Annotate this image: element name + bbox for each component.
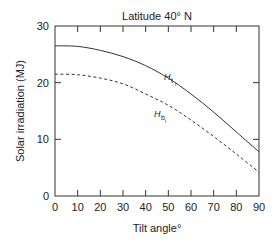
series-label-subsub: i <box>165 118 166 124</box>
x-tick-label: 50 <box>162 201 174 213</box>
x-tick-label: 40 <box>140 201 152 213</box>
y-tick-label: 30 <box>37 20 49 32</box>
x-tick-label: 80 <box>230 201 242 213</box>
chart: Latitude 40° N 0102030405060708090010203… <box>0 0 278 248</box>
x-tick-label: 0 <box>52 201 58 213</box>
x-tick-label: 30 <box>117 201 129 213</box>
series-line-H_ti <box>55 46 259 152</box>
series-label-main: H <box>164 72 171 82</box>
series-label-sub: t <box>171 77 173 84</box>
series-label-H_ti: Hti <box>164 72 176 87</box>
x-tick-label: 20 <box>94 201 106 213</box>
y-tick-label: 10 <box>37 133 49 145</box>
axis-ticks: 01020304050607080900102030 <box>37 20 265 213</box>
x-axis-label: Tilt angle° <box>133 222 182 234</box>
chart-title: Latitude 40° N <box>122 10 192 22</box>
series-label-subsub: i <box>175 81 176 87</box>
y-tick-label: 20 <box>37 77 49 89</box>
x-tick-label: 60 <box>185 201 197 213</box>
y-axis-label: Solar irradiation (MJ) <box>14 60 26 162</box>
series-label-main: H <box>154 109 161 119</box>
x-tick-label: 90 <box>253 201 265 213</box>
x-tick-label: 70 <box>208 201 220 213</box>
x-tick-label: 10 <box>72 201 84 213</box>
y-tick-label: 0 <box>43 190 49 202</box>
series-label-H_bi: Hbi <box>154 109 166 124</box>
series-labels: HtiHbi <box>154 72 176 124</box>
series-line-H_bi <box>55 74 259 172</box>
